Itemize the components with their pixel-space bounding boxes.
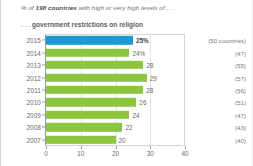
chart-title-suffix: with high or very high levels of . . . [77,4,176,11]
bar-value-label: 28 [146,86,153,93]
year-label: 2015 [1,37,41,44]
x-tick-mark [185,146,186,149]
year-label: 2008 [1,124,41,131]
year-label: 2013 [1,62,41,69]
x-tick-label: 10 [77,150,84,157]
chart-subtitle: . . . government restrictions on religio… [21,21,143,28]
y-tick-mark [42,77,45,78]
bar [46,98,136,106]
x-tick-label: 40 [181,150,188,157]
bar-value-label: 24% [132,49,145,56]
bar-row: 201026(51) [1,96,253,108]
bar-row: 200822(43) [1,121,253,133]
y-tick-mark [42,40,45,41]
y-tick-mark [42,52,45,53]
y-tick-mark [42,139,45,140]
chart-figure: % of 198 countries with high or very hig… [0,0,253,166]
bar [46,123,122,131]
country-count-label: (47) [235,49,246,56]
year-label: 2011 [1,86,41,93]
x-axis: 010203040 [45,146,185,164]
bar-row: 200720(40) [1,134,253,146]
country-count-label: (56) [235,86,246,93]
country-count-label: (57) [235,74,246,81]
country-count-label: (40) [235,136,246,143]
bar-value-label: 22 [125,124,132,131]
bar-row: 201229(57) [1,71,253,83]
year-label: 2010 [1,99,41,106]
x-tick-mark [116,146,117,149]
x-tick-mark [46,146,47,149]
bar-row: 201424%(47) [1,46,253,58]
bar-rows: 201525%(50 countries)201424%(47)201328(5… [1,34,253,146]
bar [46,136,116,144]
year-label: 2007 [1,136,41,143]
chart-subtitle-text: government restrictions on religion [32,21,143,28]
bar-row: 201128(56) [1,84,253,96]
bar [46,111,129,119]
y-tick-mark [42,65,45,66]
x-tick-label: 0 [44,150,48,157]
country-count-label: (55) [235,62,246,69]
x-tick-label: 20 [112,150,119,157]
bar-row: 200924(47) [1,109,253,121]
country-count-label: (43) [235,124,246,131]
bar-value-label: 29 [150,74,157,81]
country-count-label: (47) [235,111,246,118]
chart-subtitle-lead: . . . [21,21,32,28]
y-tick-mark [42,102,45,103]
x-tick-label: 30 [147,150,154,157]
year-label: 2012 [1,74,41,81]
bar-value-label: 20 [119,136,126,143]
x-tick-mark [81,146,82,149]
chart-title-prefix: % of [21,4,36,11]
bar-value-label: 24 [132,111,139,118]
chart-title-emphasis: 198 countries [36,4,77,11]
year-label: 2009 [1,111,41,118]
y-tick-mark [42,127,45,128]
bar [46,48,129,56]
bar [46,36,133,44]
bar-value-label: 25% [136,37,149,44]
year-label: 2014 [1,49,41,56]
x-tick-mark [150,146,151,149]
y-tick-mark [42,89,45,90]
bar [46,86,143,94]
bar-value-label: 28 [146,62,153,69]
bar-row: 201525%(50 countries) [1,34,253,46]
bar-value-label: 26 [139,99,146,106]
country-count-label: (51) [235,99,246,106]
country-count-label: (50 countries) [208,37,246,44]
bar-row: 201328(55) [1,59,253,71]
y-tick-mark [42,114,45,115]
bar [46,73,147,81]
bar [46,61,143,69]
chart-title: % of 198 countries with high or very hig… [21,4,176,11]
